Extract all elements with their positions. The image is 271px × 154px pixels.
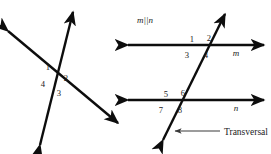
left-angle-label-3: 3: [57, 88, 61, 98]
right-angle-label-6: 6: [181, 88, 186, 98]
left-angle-label-2: 2: [64, 73, 68, 83]
right-angle-label-8: 8: [178, 105, 182, 115]
right-angle-label-7: 7: [159, 105, 164, 115]
label-layer: 1 2 3 4 m||n 1 2 3 4 5 6 7 8 m n Transve…: [0, 0, 271, 154]
line-m-label: m: [233, 48, 240, 58]
transversal-callout-label: Transversal: [224, 127, 268, 137]
left-angle-label-4: 4: [41, 79, 46, 89]
right-angle-label-4: 4: [204, 50, 209, 60]
geometry-figure: 1 2 3 4 m||n 1 2 3 4 5 6 7 8 m n Transve…: [0, 0, 271, 154]
right-angle-label-2: 2: [207, 33, 211, 43]
parallel-note: m||n: [137, 15, 153, 25]
line-n-label: n: [234, 103, 239, 113]
right-angle-label-3: 3: [185, 50, 189, 60]
left-angle-label-1: 1: [46, 62, 50, 72]
right-angle-label-5: 5: [164, 89, 168, 99]
right-angle-label-1: 1: [190, 34, 194, 44]
